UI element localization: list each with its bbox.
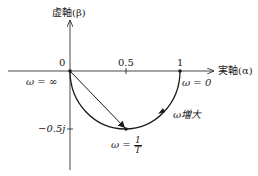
fraction-denominator: T: [135, 146, 141, 156]
point-one: [178, 69, 182, 73]
point-corner: [124, 127, 128, 131]
omega-corner-fraction: 1T: [134, 136, 142, 156]
omega-corner-prefix: ω =: [111, 139, 134, 150]
point-origin: [68, 69, 72, 73]
imag-axis-label: 虚軸(β): [52, 8, 86, 18]
tick-label-origin: 0: [59, 58, 65, 68]
direction-arrow-icon: [158, 108, 165, 114]
label-omega-infinity: ω = ∞: [26, 77, 57, 87]
tick-label-imag-half: −0.5j: [38, 124, 65, 134]
label-omega-corner: ω = 1T: [111, 136, 142, 156]
tick-label-one: 1: [177, 58, 183, 68]
tick-label-half: 0.5: [118, 58, 134, 68]
label-omega-zero: ω = 0: [182, 78, 211, 88]
label-omega-increase: ω増大: [173, 110, 201, 120]
real-axis-label: 実軸(α): [218, 66, 253, 76]
vector-arrow: [70, 71, 125, 128]
locus-semicircle: [70, 71, 180, 129]
